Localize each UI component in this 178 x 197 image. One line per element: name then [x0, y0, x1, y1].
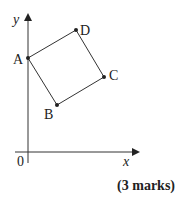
- x-axis-label: x: [122, 154, 130, 169]
- point-a: [26, 56, 30, 60]
- label-b: B: [44, 107, 53, 122]
- coordinate-diagram: y x 0 A B C D: [0, 0, 178, 197]
- marks-label: (3 marks): [0, 178, 178, 194]
- square-abcd: [28, 30, 104, 105]
- point-b: [55, 103, 59, 107]
- y-axis-label: y: [11, 12, 20, 27]
- label-d: D: [80, 23, 90, 38]
- point-d: [74, 28, 78, 32]
- origin-label: 0: [17, 154, 24, 169]
- label-c: C: [109, 68, 118, 83]
- label-a: A: [13, 52, 24, 67]
- point-c: [102, 75, 106, 79]
